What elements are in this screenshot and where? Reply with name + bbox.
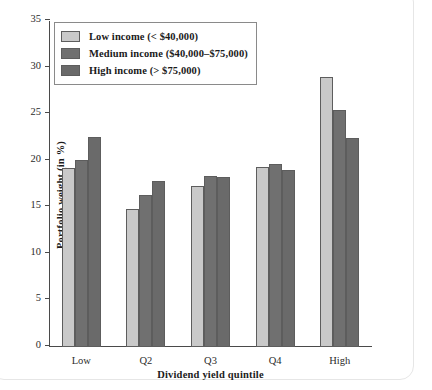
y-axis-tick: 35 (45, 19, 50, 20)
bar (269, 164, 282, 347)
bar (217, 177, 230, 347)
x-axis-category-label: Low (49, 355, 114, 366)
legend-item: Medium income ($40,000–$75,000) (61, 45, 248, 62)
y-axis-tick-label: 20 (31, 153, 42, 164)
bar (62, 168, 75, 347)
y-axis-tick-label: 10 (31, 246, 42, 257)
bar (320, 77, 333, 347)
y-axis-tick-label: 30 (31, 60, 42, 71)
bar (282, 170, 295, 347)
bar (126, 209, 139, 347)
legend-swatch (61, 65, 80, 76)
bar (75, 160, 88, 347)
bar-group (320, 21, 359, 347)
y-axis-tick-label: 35 (31, 13, 42, 24)
legend-swatch (61, 31, 80, 42)
bar (204, 176, 217, 347)
chart-legend: Low income (< $40,000)Medium income ($40… (54, 22, 257, 85)
legend-item: High income (> $75,000) (61, 62, 248, 79)
y-axis-tick-label: 5 (36, 292, 41, 303)
bar (191, 186, 204, 347)
y-axis-tick-label: 15 (31, 199, 42, 210)
x-axis-category-label: Q4 (243, 355, 308, 366)
x-axis-category-label: High (307, 355, 372, 366)
bar (333, 110, 346, 347)
legend-swatch (61, 48, 80, 59)
bar-chart-figure: Portfolio weight (in %) 05101520253035 L… (0, 0, 432, 390)
x-axis-category-label: Q3 (178, 355, 243, 366)
bar (256, 167, 269, 347)
bar-group (256, 21, 295, 347)
bar (88, 137, 101, 347)
legend-item: Low income (< $40,000) (61, 28, 248, 45)
y-axis-tick-label: 0 (36, 339, 41, 350)
bar (152, 181, 165, 347)
legend-item-label: Medium income ($40,000–$75,000) (89, 48, 248, 59)
y-axis-tick-label: 25 (31, 106, 42, 117)
x-axis-title: Dividend yield quintile (49, 369, 372, 380)
x-axis-category-label: Q2 (114, 355, 179, 366)
legend-item-label: High income (> $75,000) (89, 65, 201, 76)
bar (346, 138, 359, 347)
bar (139, 195, 152, 347)
legend-item-label: Low income (< $40,000) (89, 31, 198, 42)
